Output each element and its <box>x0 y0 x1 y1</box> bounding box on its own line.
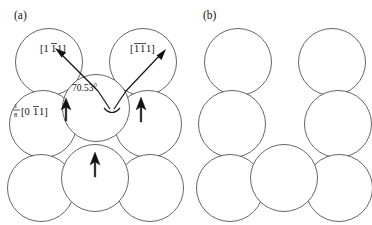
miller-label-right: [ 1 1 1] <box>130 43 155 54</box>
miller-right-barred-digit-2: 1 <box>140 43 145 54</box>
miller-left-barred-digit: 1 <box>51 43 56 54</box>
miller-left-open: [1 <box>40 43 49 54</box>
miller-label-left: [1 1 1] <box>40 43 66 54</box>
atom-circle <box>199 91 266 158</box>
burgers-barred-digit: 1 <box>33 106 38 117</box>
miller-right-tail: 1] <box>146 43 155 54</box>
burgers-bracket-tail: 1] <box>39 106 48 117</box>
figure-canvas: (a) [1 1 1] [ 1 1 1] 70 <box>0 0 372 225</box>
burgers-bracket-open: [0 <box>21 106 30 117</box>
atom-circle <box>251 145 318 212</box>
miller-right-barred-digit-1: 1 <box>134 43 139 54</box>
angle-label: 70.53° <box>72 83 97 93</box>
burgers-numerator: 1 <box>14 102 17 109</box>
atom-circle <box>205 29 272 96</box>
crystallography-figure: (a) [1 1 1] [ 1 1 1] 70 <box>0 0 372 225</box>
miller-left-tail: 1] <box>57 43 66 54</box>
atom-circle <box>299 29 366 96</box>
panel-b-tag: (b) <box>203 9 217 22</box>
atom-circle <box>305 91 372 158</box>
panel-a-tag: (a) <box>14 9 27 22</box>
